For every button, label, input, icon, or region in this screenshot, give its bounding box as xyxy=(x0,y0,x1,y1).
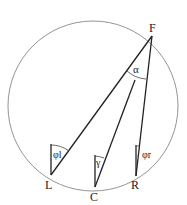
circle xyxy=(8,21,178,191)
line-C-ray xyxy=(95,80,135,187)
line-FL xyxy=(51,36,152,175)
geometry-diagram: F L C R α γ φl φr xyxy=(0,0,187,205)
label-phi-l: φl xyxy=(53,149,62,160)
label-alpha: α xyxy=(133,63,139,75)
label-gamma: γ xyxy=(95,157,101,168)
label-phi-r: φr xyxy=(142,149,152,160)
label-C: C xyxy=(90,190,98,204)
label-L: L xyxy=(45,178,52,192)
label-R: R xyxy=(131,178,139,192)
label-F: F xyxy=(149,21,156,35)
